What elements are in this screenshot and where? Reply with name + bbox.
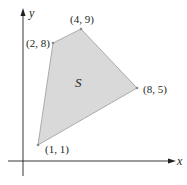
y-axis-label: y (28, 6, 35, 20)
vertex-point-8-5 (136, 87, 139, 90)
y-axis-arrow-icon (21, 8, 26, 16)
vertex-label-8-5: (8, 5) (143, 83, 167, 96)
diagram-canvas: x y S (1, 1) (2, 8) (4, 9) (8, 5) (0, 0, 187, 185)
x-axis-label: x (176, 154, 183, 168)
x-axis-arrow-icon (168, 159, 176, 164)
vertex-point-2-8 (52, 42, 55, 45)
region-s (38, 29, 137, 145)
vertex-label-2-8: (2, 8) (26, 37, 50, 50)
vertex-label-1-1: (1, 1) (45, 143, 69, 156)
vertex-point-1-1 (37, 144, 40, 147)
vertex-point-4-9 (80, 28, 83, 31)
region-label: S (75, 75, 82, 90)
vertex-label-4-9: (4, 9) (70, 13, 94, 26)
